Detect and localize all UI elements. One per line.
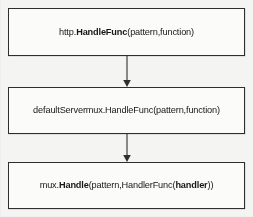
node-mux-handle-label: mux.Handle(pattern,HandlerFunc(handler)) xyxy=(40,180,214,190)
node-mux-handle: mux.Handle(pattern,HandlerFunc(handler)) xyxy=(8,162,245,209)
text-segment: (pattern,function) xyxy=(127,27,194,37)
text-segment: http. xyxy=(59,27,76,37)
text-segment: mux. xyxy=(40,180,59,190)
text-segment: defaultServermux.HandleFunc(pattern,func… xyxy=(33,105,220,115)
node-http-handlefunc-label: http.HandleFunc(pattern,function) xyxy=(59,27,194,37)
text-segment-bold: HandleFunc xyxy=(76,27,127,37)
text-segment: (pattern,HandlerFunc( xyxy=(89,180,176,190)
edge-1-arrow xyxy=(123,56,131,87)
node-defaultservermux-handlefunc: defaultServermux.HandleFunc(pattern,func… xyxy=(8,87,245,134)
edge-2-arrow xyxy=(123,134,131,162)
flowchart-diagram: http.HandleFunc(pattern,function) defaul… xyxy=(0,0,253,217)
node-defaultservermux-handlefunc-label: defaultServermux.HandleFunc(pattern,func… xyxy=(33,105,220,115)
node-http-handlefunc: http.HandleFunc(pattern,function) xyxy=(8,8,245,56)
text-segment-bold: Handle xyxy=(59,180,89,190)
text-segment: )) xyxy=(208,180,214,190)
text-segment-bold: handler xyxy=(175,180,207,190)
